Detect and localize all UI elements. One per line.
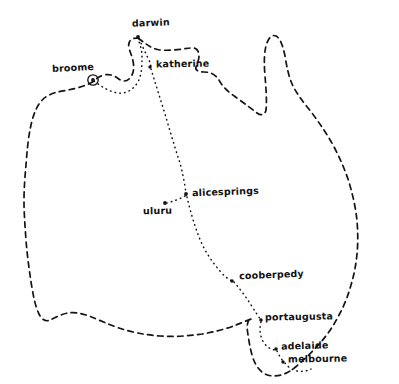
marker-broome[interactable] bbox=[88, 75, 98, 85]
marker-melbourne[interactable] bbox=[281, 360, 284, 363]
route-cooberpedy-to-portaugusta bbox=[234, 282, 261, 320]
marker-portaugusta[interactable] bbox=[259, 318, 263, 322]
route-alicesprings-to-cooberpedy bbox=[187, 197, 232, 281]
route-broome-to-darwin bbox=[94, 39, 142, 93]
marker-uluru[interactable] bbox=[163, 201, 167, 205]
marker-katherine[interactable] bbox=[148, 65, 151, 68]
marker-cooberpedy[interactable] bbox=[230, 279, 234, 283]
route-melbourne-tail bbox=[285, 363, 311, 371]
route-katherine-to-alicesprings bbox=[151, 69, 186, 194]
route-portaugusta-to-adelaide bbox=[260, 322, 276, 350]
route-group bbox=[94, 39, 311, 371]
route-alicesprings-to-uluru-spur bbox=[167, 196, 185, 203]
route-darwin-to-katherine bbox=[139, 39, 151, 68]
coastline-outline bbox=[24, 35, 358, 376]
marker-darwin[interactable] bbox=[136, 35, 140, 39]
marker-adelaide[interactable] bbox=[274, 347, 278, 351]
map-drawing bbox=[0, 0, 399, 384]
map-canvas: darwin broome katherine alicesprings ulu… bbox=[0, 0, 399, 384]
city-markers-group bbox=[88, 35, 285, 364]
marker-alicesprings[interactable] bbox=[184, 192, 188, 196]
coastline-group bbox=[24, 35, 358, 376]
